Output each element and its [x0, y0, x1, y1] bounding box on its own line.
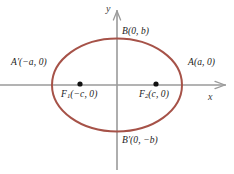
ellipse-figure: A′(−a, 0) A(a, 0) B(0, b) B′(0, −b) F1(−… — [0, 0, 234, 174]
label-focus-right: F2(c, 0) — [139, 90, 169, 100]
label-focus-left-coords: (−c, 0) — [70, 89, 97, 99]
label-covertex-bottom: B′(0, −b) — [122, 136, 158, 146]
label-vertex-left: A′(−a, 0) — [11, 58, 47, 68]
focus-right-point — [153, 81, 158, 86]
label-focus-right-coords: (c, 0) — [148, 89, 169, 99]
label-vertex-right: A(a, 0) — [188, 58, 215, 68]
figure-canvas — [0, 0, 234, 174]
label-focus-left: F1(−c, 0) — [61, 90, 97, 100]
x-axis-label: x — [208, 92, 212, 102]
focus-left-point — [77, 81, 82, 86]
y-axis-label: y — [106, 4, 110, 14]
label-covertex-top: B(0, b) — [122, 27, 149, 37]
